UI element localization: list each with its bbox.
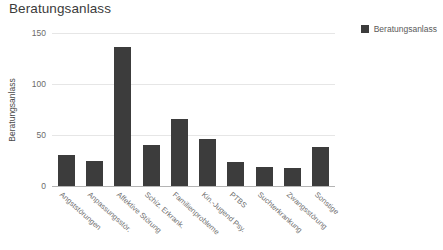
x-axis-tick-label: Sonstige: [313, 190, 341, 216]
x-label-slot: Affektive Störung: [109, 188, 137, 250]
x-label-slot: Angststörungen: [52, 188, 80, 250]
chart-legend: Beratungsanlass: [361, 24, 437, 34]
legend-item-beratungsanlass[interactable]: Beratungsanlass: [361, 24, 437, 34]
y-axis-title: Beratungsanlass: [6, 33, 18, 186]
x-label-slot: Sonstige: [307, 188, 335, 250]
bar[interactable]: [143, 145, 160, 186]
x-label-slot: Anpassungsstör.: [80, 188, 108, 250]
y-axis-tick-label: 50: [37, 130, 46, 140]
bar-slot: [165, 33, 193, 186]
bar-slot: [250, 33, 278, 186]
x-axis-line: [52, 186, 335, 187]
x-label-slot: Suchterkrankung: [250, 188, 278, 250]
x-label-slot: Familienprobleme: [165, 188, 193, 250]
legend-swatch-icon: [361, 25, 369, 33]
bar-slot: [222, 33, 250, 186]
x-label-slot: PTBS: [222, 188, 250, 250]
chart-title: Beratungsanlass: [9, 1, 111, 16]
bar[interactable]: [86, 161, 103, 187]
bar-slot: [307, 33, 335, 186]
bar[interactable]: [114, 47, 131, 186]
bar[interactable]: [312, 147, 329, 186]
y-axis-title-label: Beratungsanlass: [7, 78, 17, 141]
bar-slot: [278, 33, 306, 186]
x-label-slot: Kin.-Jugend Psy.: [193, 188, 221, 250]
bar-slot: [137, 33, 165, 186]
bar[interactable]: [227, 162, 244, 186]
bar-slot: [193, 33, 221, 186]
x-label-slot: Zwangsstörung: [278, 188, 306, 250]
bar-slot: [109, 33, 137, 186]
bar[interactable]: [256, 167, 273, 186]
legend-item-label: Beratungsanlass: [374, 24, 437, 34]
x-axis-tick-labels: AngststörungenAnpassungsstör.Affektive S…: [52, 188, 335, 250]
bar-slot: [52, 33, 80, 186]
y-axis-tick-label: 0: [41, 181, 46, 191]
y-axis-tick-label: 100: [32, 79, 46, 89]
plot-area: 050100150: [52, 33, 335, 186]
bar[interactable]: [58, 155, 75, 186]
bar[interactable]: [284, 168, 301, 186]
bar-chart: Beratungsanlass Beratungsanlass Beratung…: [0, 0, 443, 250]
bar[interactable]: [171, 119, 188, 186]
bar[interactable]: [199, 139, 216, 186]
bar-group: [52, 33, 335, 186]
x-axis-tick-label: PTBS: [228, 190, 249, 210]
y-axis-tick-label: 150: [32, 28, 46, 38]
bar-slot: [80, 33, 108, 186]
x-label-slot: Schiz. Erkrank.: [137, 188, 165, 250]
